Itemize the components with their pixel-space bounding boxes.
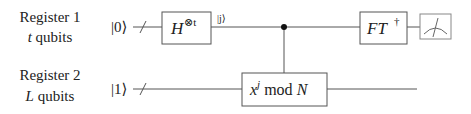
- wire-label-j: |j⟩: [217, 13, 226, 24]
- measurement-meter-icon: [420, 14, 451, 39]
- register-1-init-state: |0⟩: [111, 19, 127, 35]
- register-1-name: Register 1: [19, 9, 80, 25]
- hadamard-gate: H ⊗t: [162, 12, 211, 44]
- inverse-qft-gate: FT †: [360, 12, 407, 44]
- svg-text:†: †: [394, 15, 400, 27]
- register-2-size: L qubits: [25, 88, 75, 104]
- svg-text:FT: FT: [366, 19, 388, 38]
- register-2-name: Register 2: [19, 67, 80, 83]
- quantum-circuit-diagram: Register 1 t qubits Register 2 L qubits …: [0, 0, 471, 114]
- control-dot-icon: [281, 24, 287, 30]
- modexp-gate: xj mod N: [242, 73, 327, 106]
- register-2-label: Register 2 L qubits: [19, 67, 80, 104]
- register-1-label: Register 1 t qubits: [19, 9, 80, 45]
- register-1-size: t qubits: [28, 29, 73, 45]
- register-2-init-state: |1⟩: [111, 81, 127, 97]
- svg-text:⊗t: ⊗t: [184, 16, 196, 28]
- svg-text:H: H: [170, 19, 185, 38]
